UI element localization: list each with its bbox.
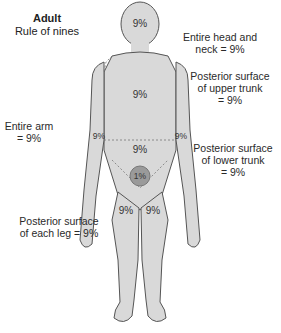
label-upper-trunk-line: of upper trunk — [180, 82, 280, 94]
label-upper-trunk: Posterior surface of upper trunk = 9% — [180, 70, 280, 106]
pct-right-arm: 9% — [175, 131, 188, 141]
label-head-line: neck = 9% — [170, 43, 270, 55]
label-upper-trunk-line: = 9% — [180, 94, 280, 106]
label-head: Entire head and neck = 9% — [170, 31, 270, 55]
pct-left-leg: 9% — [119, 205, 134, 216]
label-leg-line: Posterior surface — [16, 215, 102, 227]
label-lower-trunk-line: Posterior surface — [186, 142, 280, 154]
label-arm: Entire arm = 9% — [4, 120, 54, 144]
label-leg-line: of each leg = 9% — [16, 227, 102, 239]
label-upper-trunk-line: Posterior surface — [180, 70, 280, 82]
label-leg: Posterior surface of each leg = 9% — [16, 215, 102, 239]
pct-left-arm: 9% — [93, 131, 106, 141]
pct-head: 9% — [133, 18, 148, 29]
pct-upper-trunk: 9% — [133, 89, 148, 100]
pct-right-leg: 9% — [146, 205, 161, 216]
label-head-line: Entire head and — [170, 31, 270, 43]
pct-perineum: 1% — [134, 171, 147, 181]
label-lower-trunk-line: = 9% — [186, 166, 280, 178]
label-lower-trunk-line: of lower trunk — [186, 154, 280, 166]
label-arm-line: = 9% — [4, 132, 54, 144]
label-lower-trunk: Posterior surface of lower trunk = 9% — [186, 142, 280, 178]
pct-lower-trunk: 9% — [133, 144, 148, 155]
label-arm-line: Entire arm — [4, 120, 54, 132]
